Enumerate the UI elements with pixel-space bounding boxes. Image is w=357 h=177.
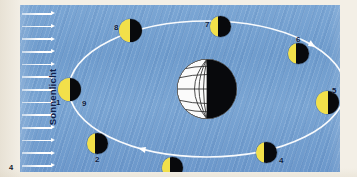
- earth-globe: [176, 58, 238, 120]
- moon-phase-2[interactable]: [87, 133, 108, 154]
- moon-phase-7[interactable]: [210, 16, 231, 37]
- moon-phase-1[interactable]: [58, 78, 81, 101]
- figure-number: 4: [9, 163, 13, 172]
- moon-label-1: 1: [56, 99, 60, 107]
- illustration-panel: Sonnenlicht: [20, 5, 340, 172]
- moon-label-9: 9: [82, 100, 86, 108]
- moon-label-6: 6: [296, 36, 300, 44]
- moon-label-4: 4: [279, 157, 283, 165]
- moon-label-2: 2: [95, 156, 99, 164]
- orbit-direction-arrow-top-right: [307, 40, 317, 49]
- moon-phase-4[interactable]: [256, 142, 277, 163]
- figure-page: Sonnenlicht: [0, 0, 357, 177]
- moon-label-7: 7: [205, 21, 209, 29]
- moon-label-8: 8: [114, 24, 118, 32]
- moon-phase-3[interactable]: [162, 157, 183, 173]
- earth-dark-half: [207, 58, 238, 120]
- moon-phase-8[interactable]: [119, 19, 142, 42]
- moon-phase-6[interactable]: [288, 43, 309, 64]
- moon-label-5: 5: [332, 87, 336, 95]
